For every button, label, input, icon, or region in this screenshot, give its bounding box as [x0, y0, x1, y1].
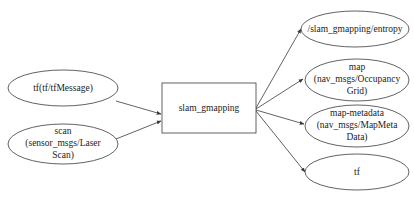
node-entropy-output: /slam_gmapping/entropy [301, 11, 409, 47]
node-slam-gmapping: slam_gmapping [162, 83, 256, 133]
node-label-line1: scan [55, 126, 72, 136]
node-label: tf [354, 167, 361, 177]
node-label-line2: (nav_msgs/MapMeta [317, 120, 399, 131]
node-label-line3: Scan) [52, 150, 74, 161]
edge-slam-to-map [256, 79, 303, 109]
ros-graph-diagram: tf(tf/tfMessage) scan (sensor_msgs/Laser… [0, 0, 414, 197]
node-label-line3: Data) [346, 132, 367, 143]
edge-slam-to-tf [256, 111, 305, 172]
node-tf-output: tf [305, 154, 409, 190]
node-label: tf(tf/tfMessage) [33, 83, 93, 94]
node-label-line1: map-metadata [330, 108, 385, 118]
edge-scan-to-slam [116, 121, 161, 139]
node-tf-input: tf(tf/tfMessage) [8, 70, 118, 106]
node-label: /slam_gmapping/entropy [308, 24, 403, 34]
edge-tf-to-slam [116, 101, 161, 114]
node-scan-input: scan (sensor_msgs/Laser Scan) [8, 124, 118, 164]
node-label-line1: map [349, 62, 366, 72]
node-map-metadata-output: map-metadata (nav_msgs/MapMeta Data) [305, 105, 409, 147]
node-label-line2: (nav_msgs/Occupancy [314, 74, 401, 85]
edge-slam-to-entropy [256, 29, 301, 108]
node-label: slam_gmapping [179, 103, 240, 113]
node-label-line2: (sensor_msgs/Laser [25, 138, 101, 149]
node-map-output: map (nav_msgs/Occupancy Grid) [305, 59, 409, 101]
edge-slam-to-map-metadata [256, 110, 304, 124]
node-label-line3: Grid) [347, 86, 368, 97]
